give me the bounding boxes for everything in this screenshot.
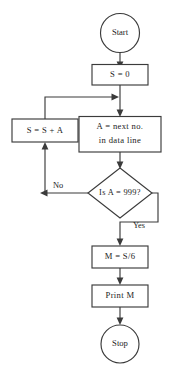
sentinel-test-label: Is A = 999? bbox=[99, 188, 141, 197]
flowchart-svg: Start S = 0 A = next no. in data line S … bbox=[0, 0, 174, 366]
node-stop[interactable]: Stop bbox=[101, 325, 139, 363]
arrow-head-icon bbox=[117, 110, 124, 118]
init-sum-label: S = 0 bbox=[110, 69, 130, 79]
arrow-head-icon bbox=[117, 318, 124, 326]
start-label: Start bbox=[112, 27, 129, 37]
arrow-head-icon bbox=[40, 190, 48, 197]
node-print-mean[interactable]: Print M bbox=[92, 285, 148, 307]
edge-accumulate-to-read-next bbox=[45, 94, 119, 119]
edge-init-sum-to-read-next bbox=[117, 85, 124, 117]
read-next-label-line1: A = next no. bbox=[97, 121, 144, 131]
accumulate-label: S = S + A bbox=[27, 125, 64, 135]
node-accumulate[interactable]: S = S + A bbox=[12, 119, 78, 142]
node-compute-mean[interactable]: M = S/6 bbox=[92, 246, 148, 268]
arrow-head-icon bbox=[112, 94, 120, 101]
stop-label: Stop bbox=[112, 338, 128, 348]
branch-label-no: No bbox=[53, 181, 63, 190]
branch-label-yes: Yes bbox=[133, 221, 145, 230]
edge-read-next-to-decision bbox=[117, 152, 124, 169]
node-read-next[interactable]: A = next no. in data line bbox=[79, 117, 161, 153]
read-next-label-line2: in data line bbox=[99, 135, 141, 145]
arrow-head-icon bbox=[42, 142, 49, 150]
node-init-sum[interactable]: S = 0 bbox=[92, 65, 148, 86]
node-start[interactable]: Start bbox=[101, 14, 140, 53]
compute-mean-label: M = S/6 bbox=[105, 251, 136, 261]
arrow-head-icon bbox=[117, 278, 124, 286]
edge-compute-mean-to-print-mean bbox=[117, 268, 124, 285]
node-sentinel-test[interactable]: Is A = 999? bbox=[88, 168, 152, 218]
flowchart-canvas: Start S = 0 A = next no. in data line S … bbox=[0, 0, 174, 366]
arrow-head-icon bbox=[117, 239, 124, 247]
print-mean-label: Print M bbox=[106, 290, 135, 300]
edge-print-mean-to-stop bbox=[117, 307, 124, 325]
